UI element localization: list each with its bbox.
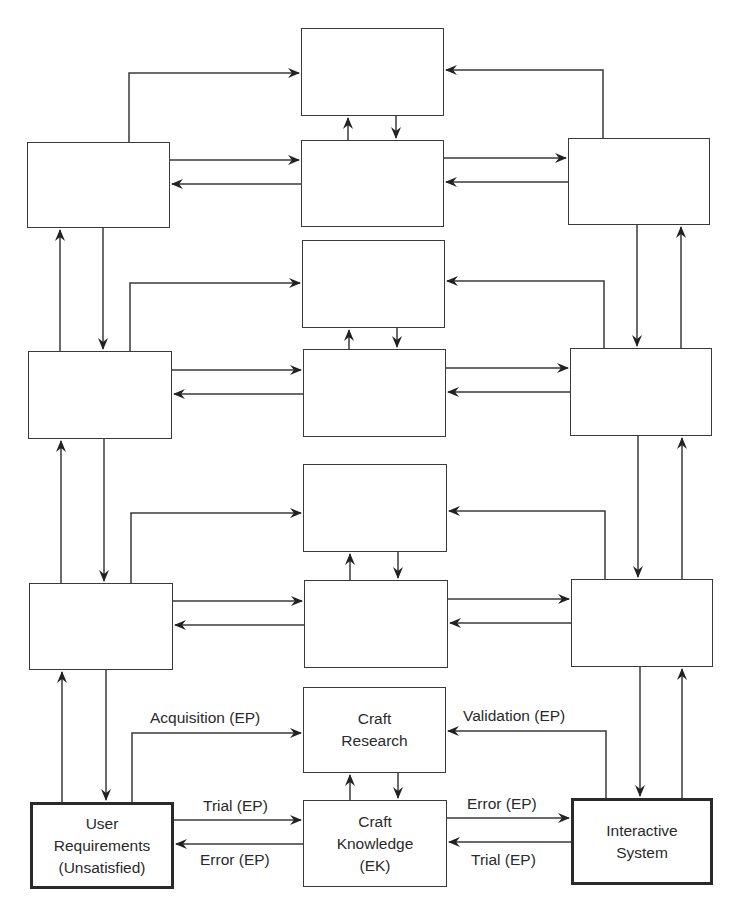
user-requirements-line1: User xyxy=(86,813,119,835)
level1-left-box xyxy=(27,142,170,228)
level3-left-box xyxy=(29,583,173,670)
connector-lines xyxy=(0,0,745,912)
interactive-system-box: Interactive System xyxy=(571,798,713,885)
interactive-system-line2: System xyxy=(616,842,668,864)
level1-center-top-box xyxy=(301,28,444,116)
craft-research-line1: Craft xyxy=(358,708,392,730)
trial-left-label: Trial (EP) xyxy=(203,797,268,815)
error-right-label: Error (EP) xyxy=(467,795,537,813)
user-requirements-line3: (Unsatisfied) xyxy=(59,857,146,879)
craft-knowledge-line3: (EK) xyxy=(360,855,391,877)
craft-knowledge-line1: Craft xyxy=(358,811,392,833)
user-requirements-line2: Requirements xyxy=(54,835,151,857)
acquisition-label: Acquisition (EP) xyxy=(150,709,260,727)
level3-center-bottom-box xyxy=(304,580,448,668)
level2-left-box xyxy=(28,351,172,439)
craft-research-line2: Research xyxy=(341,730,407,752)
level2-center-bottom-box xyxy=(303,349,446,437)
craft-discipline-diagram: Craft Research Craft Knowledge (EK) User… xyxy=(0,0,745,912)
trial-right-label: Trial (EP) xyxy=(471,851,536,869)
user-requirements-box: User Requirements (Unsatisfied) xyxy=(30,802,174,889)
validation-label: Validation (EP) xyxy=(463,707,565,725)
level2-center-top-box xyxy=(302,240,445,328)
craft-research-box: Craft Research xyxy=(303,687,446,773)
error-left-label: Error (EP) xyxy=(200,851,270,869)
craft-knowledge-box: Craft Knowledge (EK) xyxy=(303,800,447,887)
craft-knowledge-line2: Knowledge xyxy=(337,833,414,855)
level3-center-top-box xyxy=(303,464,447,552)
level2-right-box xyxy=(570,348,712,436)
interactive-system-line1: Interactive xyxy=(606,820,678,842)
level1-right-box xyxy=(568,138,710,225)
level3-right-box xyxy=(571,579,713,667)
level1-center-bottom-box xyxy=(301,140,444,227)
